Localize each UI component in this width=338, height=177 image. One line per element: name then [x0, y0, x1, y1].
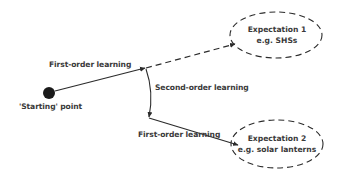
expectation-1-title: Expectation 1 — [236, 24, 318, 35]
expectation-1-subtitle: e.g. SHSs — [236, 35, 318, 46]
first-order-label-1: First-order learning — [49, 60, 131, 69]
expectation-2-title: Expectation 2 — [234, 133, 320, 144]
first-order-arrow-1 — [55, 68, 145, 91]
dashed-arrow-to-expectation-1 — [146, 44, 235, 68]
first-order-label-2: First-order learning — [138, 130, 220, 139]
expectation-1-text: Expectation 1 e.g. SHSs — [236, 24, 318, 46]
expectation-2-text: Expectation 2 e.g. solar lanterns — [234, 133, 320, 155]
second-order-label: Second-order learning — [155, 83, 249, 92]
starting-point-dot — [43, 87, 55, 99]
starting-point-label: 'Starting' point — [19, 102, 82, 111]
expectation-2-subtitle: e.g. solar lanterns — [234, 144, 320, 155]
second-order-curved-arrow — [146, 69, 151, 117]
